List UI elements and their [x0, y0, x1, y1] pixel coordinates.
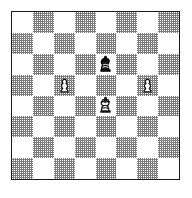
board-square-g7[interactable]: [137, 33, 158, 54]
board-square-f1[interactable]: [116, 158, 137, 179]
board-square-e8[interactable]: [96, 12, 117, 33]
board-square-h3[interactable]: [158, 116, 179, 137]
board-square-g8[interactable]: [137, 12, 158, 33]
board-square-a5[interactable]: [12, 75, 33, 96]
board-square-h5[interactable]: [158, 75, 179, 96]
board-square-c4[interactable]: [54, 96, 75, 117]
board-square-b7[interactable]: [33, 33, 54, 54]
board-square-e6[interactable]: [96, 54, 117, 75]
chess-board-frame: [11, 11, 180, 180]
board-square-g1[interactable]: [137, 158, 158, 179]
board-square-a7[interactable]: [12, 33, 33, 54]
board-square-a1[interactable]: [12, 158, 33, 179]
board-square-g3[interactable]: [137, 116, 158, 137]
board-square-e5[interactable]: [96, 75, 117, 96]
board-square-a2[interactable]: [12, 137, 33, 158]
board-square-a3[interactable]: [12, 116, 33, 137]
black-king-e6[interactable]: [96, 54, 117, 75]
board-square-b5[interactable]: [33, 75, 54, 96]
board-square-e3[interactable]: [96, 116, 117, 137]
board-square-h1[interactable]: [158, 158, 179, 179]
board-square-c6[interactable]: [54, 54, 75, 75]
chess-diagram: Chess position diagram 8/8/4k3/2P3P1/4K3…: [0, 0, 192, 198]
board-square-c1[interactable]: [54, 158, 75, 179]
board-square-a4[interactable]: [12, 96, 33, 117]
board-square-b8[interactable]: [33, 12, 54, 33]
board-square-d5[interactable]: [75, 75, 96, 96]
board-square-c3[interactable]: [54, 116, 75, 137]
board-square-f5[interactable]: [116, 75, 137, 96]
board-square-b2[interactable]: [33, 137, 54, 158]
board-square-f6[interactable]: [116, 54, 137, 75]
board-square-b3[interactable]: [33, 116, 54, 137]
board-square-e4[interactable]: [96, 96, 117, 117]
board-square-h8[interactable]: [158, 12, 179, 33]
board-square-d7[interactable]: [75, 33, 96, 54]
board-square-c5[interactable]: [54, 75, 75, 96]
board-square-b4[interactable]: [33, 96, 54, 117]
chess-board-grid: [12, 12, 179, 179]
board-square-h2[interactable]: [158, 137, 179, 158]
board-square-f4[interactable]: [116, 96, 137, 117]
white-pawn-c5[interactable]: [54, 75, 75, 96]
board-square-b6[interactable]: [33, 54, 54, 75]
board-square-a6[interactable]: [12, 54, 33, 75]
board-square-h6[interactable]: [158, 54, 179, 75]
board-square-g6[interactable]: [137, 54, 158, 75]
board-square-f8[interactable]: [116, 12, 137, 33]
board-square-c8[interactable]: [54, 12, 75, 33]
board-square-f7[interactable]: [116, 33, 137, 54]
board-square-f2[interactable]: [116, 137, 137, 158]
white-pawn-g5[interactable]: [137, 75, 158, 96]
board-square-e7[interactable]: [96, 33, 117, 54]
board-square-d2[interactable]: [75, 137, 96, 158]
board-square-e2[interactable]: [96, 137, 117, 158]
board-square-g2[interactable]: [137, 137, 158, 158]
board-square-f3[interactable]: [116, 116, 137, 137]
board-square-b1[interactable]: [33, 158, 54, 179]
board-square-c7[interactable]: [54, 33, 75, 54]
board-square-d6[interactable]: [75, 54, 96, 75]
board-square-g4[interactable]: [137, 96, 158, 117]
board-square-d4[interactable]: [75, 96, 96, 117]
board-square-a8[interactable]: [12, 12, 33, 33]
board-square-g5[interactable]: [137, 75, 158, 96]
board-square-h7[interactable]: [158, 33, 179, 54]
board-square-d8[interactable]: [75, 12, 96, 33]
board-square-h4[interactable]: [158, 96, 179, 117]
board-square-c2[interactable]: [54, 137, 75, 158]
white-king-e4[interactable]: [96, 96, 117, 117]
board-square-d3[interactable]: [75, 116, 96, 137]
board-square-e1[interactable]: [96, 158, 117, 179]
board-square-d1[interactable]: [75, 158, 96, 179]
